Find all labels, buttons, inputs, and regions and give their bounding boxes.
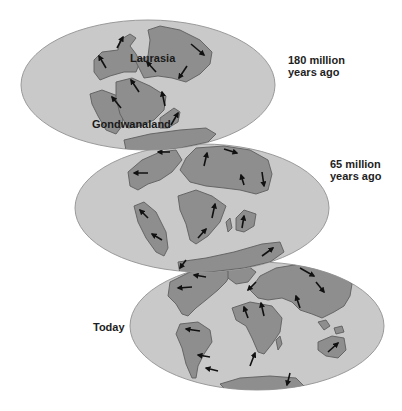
era-label-today-line1: Today	[93, 321, 125, 333]
era-label-180mya-line2: years ago	[288, 66, 345, 78]
era-label-today: Today	[93, 321, 125, 333]
era-label-65mya: 65 million years ago	[330, 158, 381, 182]
globe-180mya: Laurasia Gondwanaland	[21, 20, 275, 152]
era-label-65mya-line2: years ago	[330, 170, 381, 182]
globe-today	[130, 262, 384, 394]
globe-65mya	[75, 144, 329, 274]
gondwanaland-label: Gondwanaland	[92, 118, 171, 130]
era-label-180mya-line1: 180 million	[288, 54, 345, 66]
era-label-180mya: 180 million years ago	[288, 54, 345, 78]
laurasia-label: Laurasia	[130, 52, 176, 64]
era-label-65mya-line1: 65 million	[330, 158, 381, 170]
